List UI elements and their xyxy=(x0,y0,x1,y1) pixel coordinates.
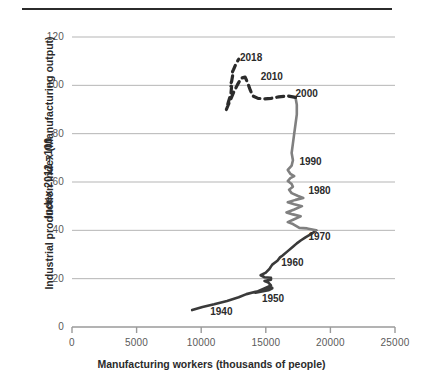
series-path-2000-2018 xyxy=(226,59,295,109)
gridlines xyxy=(72,37,395,279)
axis-ticks xyxy=(72,327,395,333)
x-tick-label: 5000 xyxy=(107,337,167,348)
year-annotation-1940: 1940 xyxy=(210,306,232,317)
y-axis-title-line2: Index 2012 =100 xyxy=(38,48,52,308)
year-annotation-1990: 1990 xyxy=(299,156,321,167)
year-annotation-2000: 2000 xyxy=(296,88,318,99)
year-annotation-1970: 1970 xyxy=(308,231,330,242)
x-tick-label: 20000 xyxy=(300,337,360,348)
series-path-1940-1970 xyxy=(192,230,316,310)
year-annotation-1980: 1980 xyxy=(308,185,330,196)
year-annotation-2018: 2018 xyxy=(240,52,262,63)
x-tick-label: 15000 xyxy=(236,337,296,348)
y-axis-title-line2-text: Index 2012 =100 xyxy=(42,138,54,218)
x-tick-label: 10000 xyxy=(171,337,231,348)
year-annotation-2010: 2010 xyxy=(261,71,283,82)
x-tick-label: 25000 xyxy=(365,337,423,348)
year-annotation-1950: 1950 xyxy=(262,293,284,304)
year-annotation-1960: 1960 xyxy=(281,257,303,268)
x-tick-label: 0 xyxy=(42,337,102,348)
industrial-production-scatter-chart: 020406080100120 050001000015000200002500… xyxy=(0,0,423,388)
x-axis-title: Manufacturing workers (thousands of peop… xyxy=(0,358,423,370)
y-tick-label: 0 xyxy=(30,321,64,332)
